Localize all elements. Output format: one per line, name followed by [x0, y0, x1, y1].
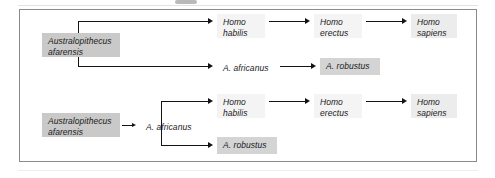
upper-africanus-to-robustus-arrowhead	[311, 63, 316, 69]
lower-erectus-to-sapiens-line	[366, 101, 404, 102]
lower-branch-bottom-arrowhead	[208, 142, 213, 148]
lower-node-a-robustus: A. robustus	[217, 137, 277, 154]
scan-rule-bottom	[18, 170, 478, 171]
upper-branch-top-arrowhead	[208, 18, 213, 24]
lower-branch-top-arrowhead	[208, 98, 213, 104]
upper-node-a-robustus: A. robustus	[320, 58, 380, 75]
lower-habilis-to-erectus-arrowhead	[305, 98, 310, 104]
upper-node-homo-habilis: Homo habilis	[217, 14, 265, 38]
lower-root-to-africanus-arrowhead	[132, 123, 136, 127]
upper-habilis-to-erectus-arrowhead	[305, 18, 310, 24]
lower-bracket-spine	[161, 101, 162, 145]
upper-erectus-to-sapiens-arrowhead	[402, 18, 407, 24]
lower-branch-top-line	[161, 101, 210, 102]
upper-habilis-to-erectus-line	[269, 21, 307, 22]
lower-node-homo-sapiens: Homo sapiens	[411, 94, 457, 118]
upper-branch-bottom-line	[78, 66, 210, 67]
scan-artifact	[175, 0, 197, 4]
lower-branch-bottom-line	[161, 145, 210, 146]
lower-node-a-africanus: A. africanus	[140, 119, 198, 132]
figure-canvas: Australopithecus afarensis Homo habilis …	[0, 0, 495, 178]
upper-branch-bottom-arrowhead	[208, 63, 213, 69]
upper-africanus-to-robustus-line	[280, 66, 313, 67]
lower-erectus-to-sapiens-arrowhead	[402, 98, 407, 104]
upper-erectus-to-sapiens-line	[366, 21, 404, 22]
upper-node-homo-erectus: Homo erectus	[314, 14, 362, 38]
upper-node-a-africanus: A. africanus	[217, 60, 275, 73]
upper-node-australopithecus-afarensis: Australopithecus afarensis	[42, 33, 120, 57]
lower-node-homo-habilis: Homo habilis	[217, 94, 265, 118]
upper-branch-top-line	[78, 21, 210, 22]
lower-node-homo-erectus: Homo erectus	[314, 94, 362, 118]
lower-habilis-to-erectus-line	[269, 101, 307, 102]
upper-node-homo-sapiens: Homo sapiens	[411, 14, 457, 38]
scan-rule-top	[18, 5, 478, 6]
lower-node-australopithecus-afarensis: Australopithecus afarensis	[42, 113, 120, 137]
